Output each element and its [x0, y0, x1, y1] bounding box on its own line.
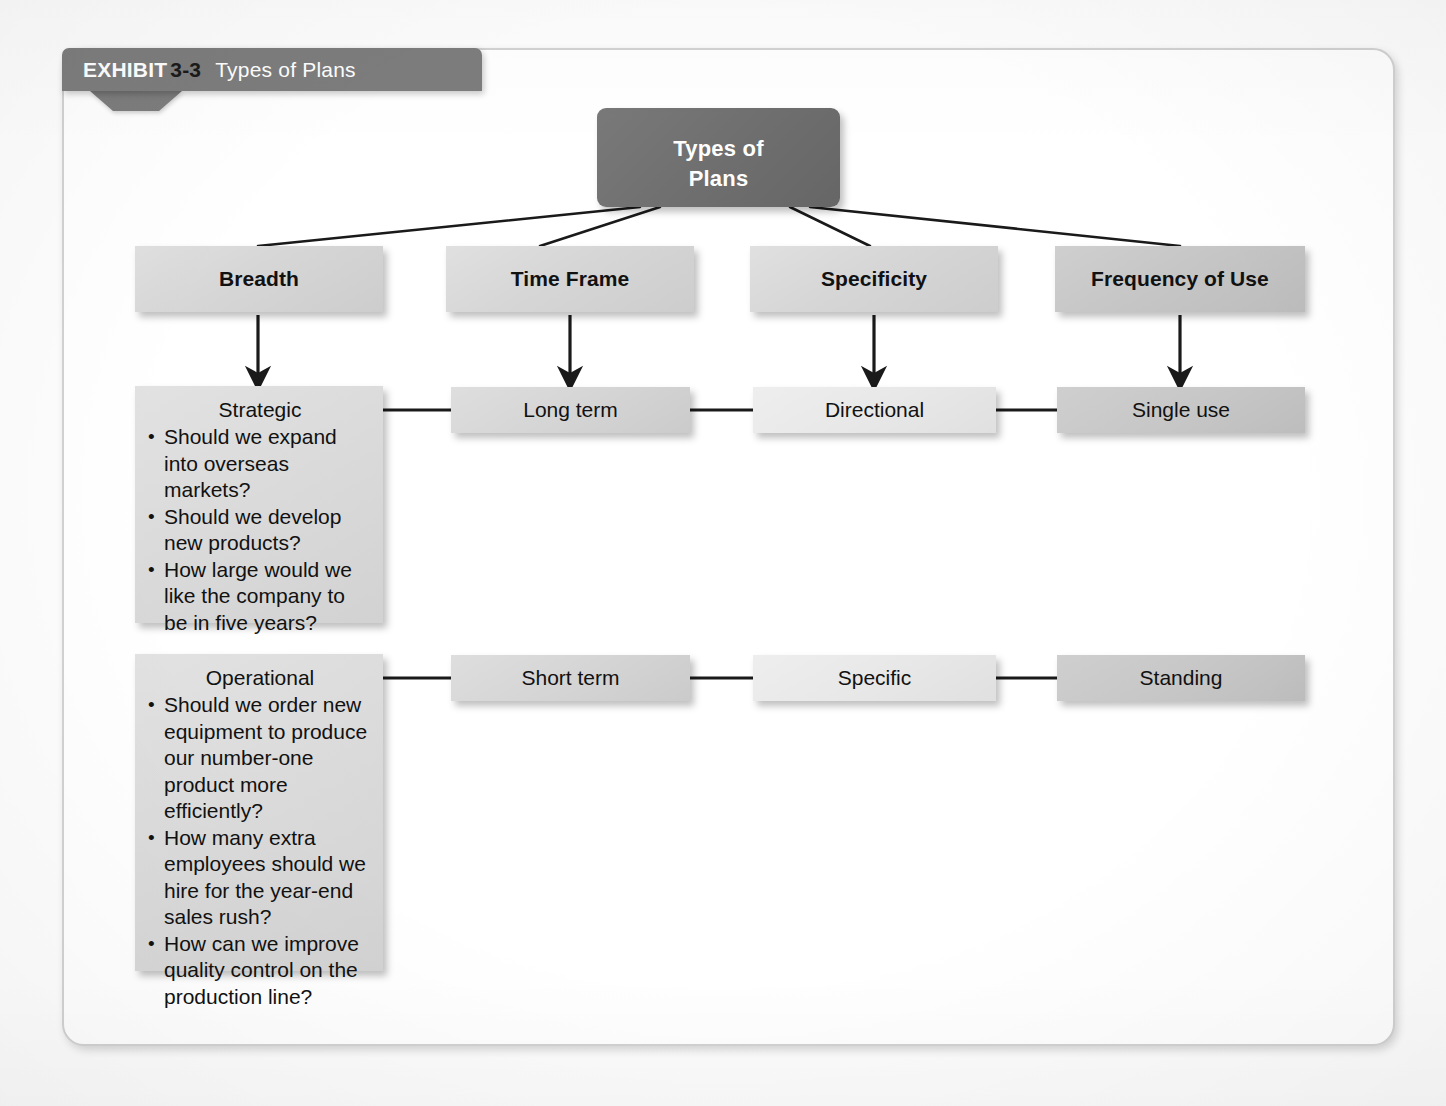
exhibit-label: EXHIBIT: [83, 58, 167, 81]
exhibit-banner: EXHIBIT3-3Types of Plans: [62, 48, 482, 91]
node-strategic[interactable]: Strategic Should we expand into overseas…: [135, 386, 383, 623]
node-directional-label: Directional: [753, 387, 996, 433]
exhibit-title: Types of Plans: [204, 58, 356, 81]
node-breadth[interactable]: Breadth: [135, 246, 383, 312]
node-single-use[interactable]: Single use: [1057, 387, 1305, 433]
node-long-term[interactable]: Long term: [451, 387, 690, 433]
exhibit-page: EXHIBIT3-3Types of Plans: [0, 0, 1446, 1106]
list-item: How many extra employees should we hire …: [147, 825, 373, 931]
node-directional[interactable]: Directional: [753, 387, 996, 433]
list-item: Should we order new equipment to produce…: [147, 692, 373, 825]
node-types-of-plans-label: Types ofPlans: [597, 108, 840, 194]
node-time-frame[interactable]: Time Frame: [446, 246, 694, 312]
exhibit-banner-tab: [90, 91, 182, 111]
node-long-term-label: Long term: [451, 387, 690, 433]
node-types-of-plans[interactable]: Types ofPlans: [597, 108, 840, 207]
node-specificity[interactable]: Specificity: [750, 246, 998, 312]
exhibit-banner-text: EXHIBIT3-3Types of Plans: [83, 48, 356, 91]
node-specific[interactable]: Specific: [753, 655, 996, 701]
list-item: Should we develop new products?: [147, 504, 373, 557]
node-frequency-of-use-label: Frequency of Use: [1055, 246, 1305, 312]
node-breadth-label: Breadth: [135, 246, 383, 312]
node-operational-bullets: Should we order new equipment to produce…: [147, 692, 373, 1010]
node-short-term[interactable]: Short term: [451, 655, 690, 701]
node-operational[interactable]: Operational Should we order new equipmen…: [135, 654, 383, 971]
exhibit-number: 3-3: [167, 58, 204, 81]
node-standing-label: Standing: [1057, 655, 1305, 701]
node-single-use-label: Single use: [1057, 387, 1305, 433]
node-strategic-bullets: Should we expand into overseas markets? …: [147, 424, 373, 636]
node-specificity-label: Specificity: [750, 246, 998, 312]
node-short-term-label: Short term: [451, 655, 690, 701]
list-item: How large would we like the company to b…: [147, 557, 373, 637]
node-operational-title: Operational: [147, 664, 373, 691]
node-strategic-title: Strategic: [147, 396, 373, 423]
node-time-frame-label: Time Frame: [446, 246, 694, 312]
node-frequency-of-use[interactable]: Frequency of Use: [1055, 246, 1305, 312]
node-standing[interactable]: Standing: [1057, 655, 1305, 701]
node-specific-label: Specific: [753, 655, 996, 701]
list-item: Should we expand into overseas markets?: [147, 424, 373, 504]
list-item: How can we improve quality control on th…: [147, 931, 373, 1011]
